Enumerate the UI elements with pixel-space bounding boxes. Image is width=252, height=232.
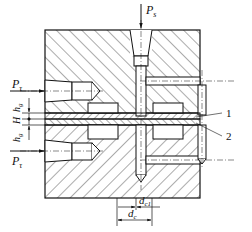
- svg-text:hg: hg: [11, 103, 24, 112]
- svg-text:Pτ: Pτ: [11, 77, 23, 93]
- svg-text:Pτ: Pτ: [11, 154, 23, 170]
- svg-text:2: 2: [226, 130, 232, 142]
- force-ps-arrow: Ps: [141, 3, 156, 28]
- svg-text:Ps: Ps: [145, 3, 156, 19]
- force-pt-top-arrow: Pτ: [10, 77, 44, 93]
- lower-die-block: [45, 125, 206, 198]
- svg-text:hg: hg: [11, 133, 24, 142]
- H-label: H: [11, 116, 22, 125]
- svg-text:1: 1: [226, 107, 232, 119]
- vertical-dimensions: [22, 98, 45, 140]
- upper-die-block: [45, 30, 206, 116]
- diagram-canvas: Ps Pτ Pτ hg H hg dc1 dc 1 2: [0, 0, 252, 232]
- force-pt-bottom-arrow: Pτ: [10, 151, 44, 170]
- strip-layers: [45, 113, 200, 125]
